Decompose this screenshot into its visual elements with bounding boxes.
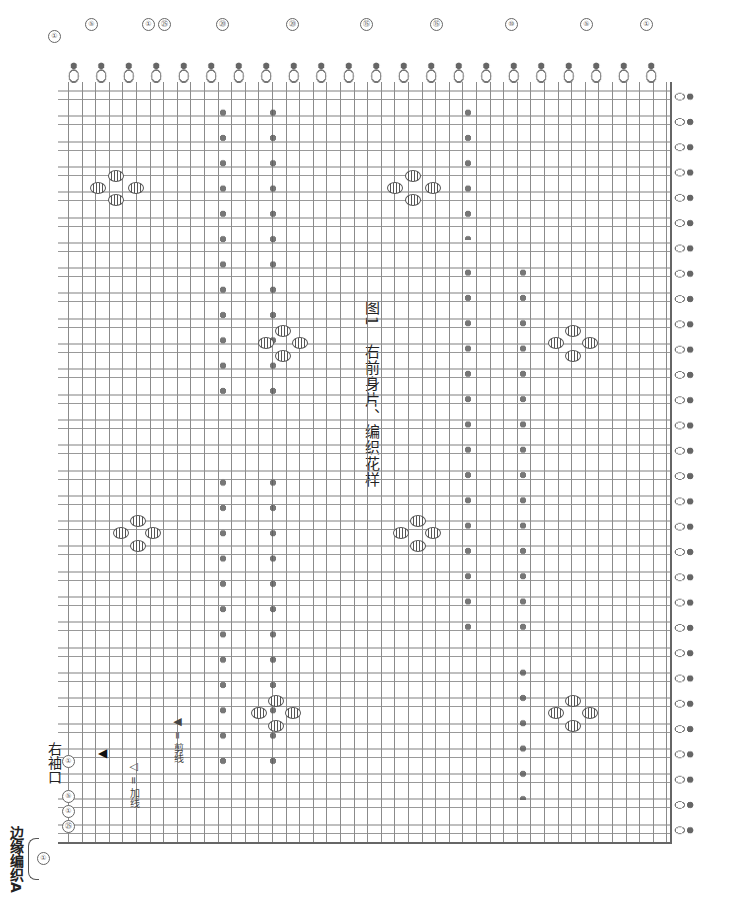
edging-label: 边缘编织A [8, 826, 24, 893]
row-marker: ㉕ [158, 18, 171, 31]
lace-column [215, 100, 231, 400]
sleeve-opening-label: 右袖口 [44, 742, 64, 784]
row-marker: ⑤ [580, 18, 593, 31]
row-marker: ⑩ [505, 18, 518, 31]
lace-column [460, 100, 476, 240]
row-marker: ① [142, 18, 155, 31]
row-marker: ⑳ [216, 18, 229, 31]
lace-column [515, 260, 531, 640]
row-marker: ① [640, 18, 653, 31]
row-marker: ⑤ [85, 18, 98, 31]
row-marker: ⑮ [360, 18, 373, 31]
right-edging-border [672, 84, 698, 844]
legend-add-yarn-text: = 加线 [128, 776, 139, 808]
row-marker: ⑮ [430, 18, 443, 31]
brace-bracket [28, 838, 39, 880]
legend-add-yarn: ◁ = 加线 [126, 760, 141, 808]
top-edging-border [60, 58, 670, 84]
add-yarn-marker-icon: ◀ [98, 746, 107, 760]
row-marker: ㉕ [62, 820, 75, 833]
lace-column [215, 470, 231, 770]
row-marker: ① [62, 805, 75, 818]
legend-cut-yarn-text: = 剪线 [172, 731, 183, 763]
add-yarn-icon: ◁ [127, 760, 140, 773]
legend-cut-yarn: ◀ = 剪线 [170, 715, 185, 763]
row-marker: ⑳ [286, 18, 299, 31]
row-marker: ⑤ [62, 790, 75, 803]
row-marker: ① [48, 30, 61, 43]
cut-yarn-icon: ◀ [171, 715, 184, 728]
chart-outline [58, 82, 672, 844]
lace-column [460, 260, 476, 640]
lace-column [515, 660, 531, 800]
